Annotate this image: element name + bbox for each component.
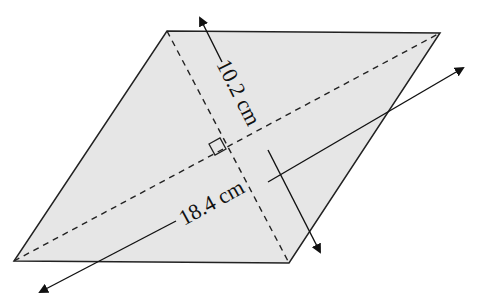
diagram-canvas: 10.2 cm 18.4 cm <box>0 0 478 304</box>
rhombus-diagram: 10.2 cm 18.4 cm <box>0 0 478 304</box>
